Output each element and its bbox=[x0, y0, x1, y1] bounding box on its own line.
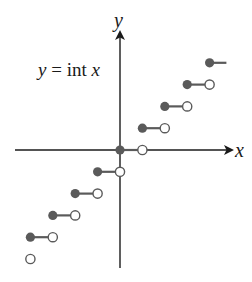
closed-endpoint-dot bbox=[93, 167, 102, 176]
open-endpoint-dot bbox=[115, 167, 124, 176]
open-endpoint-dot bbox=[138, 145, 147, 154]
closed-endpoint-dot bbox=[160, 102, 169, 111]
function-label-arg: x bbox=[91, 59, 99, 80]
closed-endpoint-dot bbox=[48, 211, 57, 220]
step-function-plot bbox=[0, 0, 252, 282]
y-axis-label: y bbox=[114, 10, 123, 30]
open-endpoint-dot bbox=[183, 102, 192, 111]
closed-endpoint-dot bbox=[115, 145, 124, 154]
open-endpoint-dot bbox=[71, 211, 80, 220]
function-label: y = int x bbox=[38, 60, 100, 79]
open-endpoint-dot bbox=[205, 80, 214, 89]
open-endpoint-dot bbox=[160, 124, 169, 133]
open-endpoint-dot bbox=[93, 189, 102, 198]
closed-endpoint-dot bbox=[26, 233, 35, 242]
closed-endpoint-dot bbox=[138, 124, 147, 133]
open-endpoint-dot bbox=[48, 233, 57, 242]
x-axis-label: x bbox=[235, 140, 244, 160]
closed-endpoint-dot bbox=[183, 80, 192, 89]
open-endpoint-dot bbox=[26, 254, 35, 263]
closed-endpoint-dot bbox=[205, 58, 214, 67]
closed-endpoint-dot bbox=[71, 189, 80, 198]
function-label-equals: = bbox=[46, 59, 66, 80]
function-label-fn: int bbox=[67, 59, 92, 80]
